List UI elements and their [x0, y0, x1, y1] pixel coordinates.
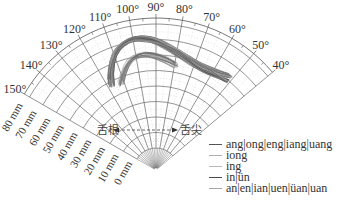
legend-line-icon	[209, 144, 222, 145]
radial-tick-labels: 0 mm10 mm20 mm30 mm40 mm50 mm60 mm70 mm8…	[0, 100, 135, 187]
tongue-tip-label: 舌尖	[180, 124, 202, 137]
angle-tick-label: 80°	[176, 2, 193, 16]
legend-line-icon	[209, 166, 222, 167]
tongue-root-label: 舌根	[97, 123, 119, 137]
angle-tick-label: 60°	[229, 22, 246, 36]
legend-line-icon	[209, 155, 222, 156]
tongue-contour-traces	[108, 36, 233, 88]
legend-line-icon	[209, 177, 222, 178]
angle-tick-label: 90°	[148, 0, 165, 14]
angle-tick-label: 100°	[116, 2, 139, 16]
angle-tick-label: 40°	[272, 58, 289, 72]
angle-tick-label: 130°	[40, 38, 63, 52]
angle-tick-label: 70°	[203, 10, 220, 24]
legend-line-icon	[209, 188, 222, 189]
legend: ang|ong|eng|iang|uang iong ing in|ün an|…	[209, 139, 332, 194]
angle-tick-label: 140°	[20, 58, 43, 72]
angle-tick-label: 50°	[252, 38, 269, 52]
angle-tick-label: 120°	[63, 22, 86, 36]
angle-tick-label: 150°	[3, 82, 26, 96]
angle-tick-label: 110°	[89, 10, 112, 24]
legend-item: an|en|ian|uen|üan|uan	[209, 183, 332, 194]
